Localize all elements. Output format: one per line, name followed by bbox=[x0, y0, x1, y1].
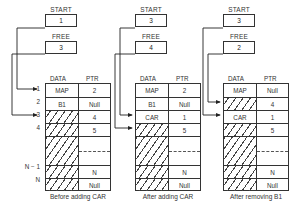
free-pointer-box: 2 bbox=[223, 41, 255, 54]
table-row: 4 bbox=[224, 97, 288, 110]
ptr-cell: 5 bbox=[257, 124, 288, 136]
table-row-gap bbox=[224, 136, 288, 165]
free-slot-hatched-cell bbox=[224, 166, 257, 178]
ptr-cell: Null bbox=[257, 179, 288, 191]
data-column-header: DATA bbox=[228, 75, 244, 82]
ellipsis-cell bbox=[257, 137, 288, 165]
table-row: N bbox=[224, 165, 288, 178]
start-pointer-box: 3 bbox=[223, 14, 255, 27]
start-label: START bbox=[223, 6, 255, 13]
ptr-column-header: PTR bbox=[264, 75, 277, 82]
table-row: MAP Null bbox=[224, 84, 288, 97]
ptr-cell: N bbox=[257, 166, 288, 178]
free-label: FREE bbox=[223, 33, 255, 40]
data-cell: MAP bbox=[224, 84, 257, 97]
dashed-separator bbox=[257, 151, 288, 152]
table-row: 5 bbox=[224, 123, 288, 136]
free-slot-hatched-cell bbox=[224, 179, 257, 191]
panel-after-removing-b1: START 3 FREE 2 DATA PTR MAP Null 4 CAR 1… bbox=[0, 0, 298, 205]
data-cell: CAR bbox=[224, 111, 257, 123]
panel-caption: After removing B1 bbox=[211, 193, 298, 200]
free-slot-hatched-cell bbox=[224, 98, 257, 110]
table-row: CAR 1 bbox=[224, 110, 288, 123]
ptr-cell: 4 bbox=[257, 98, 288, 110]
linked-list-table: MAP Null 4 CAR 1 5 N Null bbox=[223, 83, 289, 191]
free-slot-hatched-cell bbox=[224, 137, 257, 165]
ptr-cell: Null bbox=[257, 84, 288, 97]
table-row: Null bbox=[224, 178, 288, 191]
ptr-cell: 1 bbox=[257, 111, 288, 123]
free-slot-hatched-cell bbox=[224, 124, 257, 136]
